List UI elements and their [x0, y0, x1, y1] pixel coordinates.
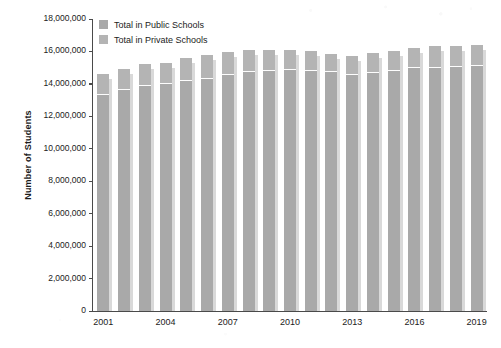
bar-stack: [180, 59, 192, 311]
bar-segment-private[interactable]: [450, 46, 462, 67]
bar-segment-private[interactable]: [263, 50, 275, 71]
bar-stack: [471, 46, 483, 311]
bar-segment-private[interactable]: [97, 74, 109, 95]
bar-segment-public[interactable]: [471, 66, 483, 311]
y-axis-tick-label: 6,000,000: [48, 208, 86, 218]
legend-item-label: Total in Private Schools: [114, 35, 208, 45]
bar-segment-public[interactable]: [305, 71, 317, 311]
bar-segment-public[interactable]: [160, 84, 172, 311]
x-axis-tick-label: 2013: [342, 317, 362, 327]
bar-segment-private[interactable]: [429, 46, 441, 67]
bar-segment-public[interactable]: [388, 71, 400, 311]
bar-stack: [450, 47, 462, 311]
bar-stack: [118, 70, 130, 311]
x-axis-tick-label: 2019: [467, 317, 487, 327]
bar-segment-private[interactable]: [201, 55, 213, 80]
bar-segment-public[interactable]: [408, 68, 420, 311]
bar-segment-private[interactable]: [367, 53, 379, 73]
x-axis-tick-label: 2001: [93, 317, 113, 327]
bar-stack: [263, 51, 275, 311]
bar-segment-public[interactable]: [97, 95, 109, 311]
bar-segment-public[interactable]: [284, 70, 296, 311]
bar-segment-private[interactable]: [222, 52, 234, 75]
x-axis-tick-label: 2004: [156, 317, 176, 327]
bar-stack: [97, 75, 109, 311]
bar-segment-private[interactable]: [139, 64, 151, 86]
bar-stack: [139, 65, 151, 311]
bar-segment-private[interactable]: [243, 50, 255, 72]
bar-chart: Number of Students 02,000,0004,000,0006,…: [0, 0, 501, 348]
bar-segment-private[interactable]: [471, 45, 483, 66]
bar-stack: [346, 57, 358, 311]
bar-segment-private[interactable]: [346, 56, 358, 75]
bar-segment-private[interactable]: [118, 69, 130, 90]
y-axis-tick-label: 4,000,000: [48, 240, 86, 250]
x-axis-tick-label: 2007: [218, 317, 238, 327]
legend-item-label: Total in Public Schools: [114, 20, 204, 30]
bar-segment-public[interactable]: [139, 86, 151, 311]
bar-segment-public[interactable]: [201, 79, 213, 311]
bar-segment-public[interactable]: [346, 75, 358, 311]
bar-stack: [201, 56, 213, 312]
bar-segment-public[interactable]: [367, 73, 379, 311]
bar-segment-public[interactable]: [450, 67, 462, 311]
bar-segment-private[interactable]: [388, 51, 400, 71]
y-axis-tick-label: 10,000,000: [43, 143, 86, 153]
y-axis-tick-label: 8,000,000: [48, 175, 86, 185]
bar-segment-public[interactable]: [325, 72, 337, 311]
bar-segment-private[interactable]: [305, 51, 317, 71]
legend-item[interactable]: Total in Private Schools: [99, 33, 208, 46]
x-axis-tick-label: 2010: [280, 317, 300, 327]
legend-item[interactable]: Total in Public Schools: [99, 18, 208, 31]
x-axis-ticks: 2001200420072010201320162019: [93, 312, 487, 336]
y-axis-ticks: 02,000,0004,000,0006,000,0008,000,00010,…: [0, 0, 93, 348]
bar-segment-private[interactable]: [325, 54, 337, 72]
bar-stack: [367, 54, 379, 311]
bar-stack: [284, 51, 296, 311]
y-axis-tick-label: 12,000,000: [43, 110, 86, 120]
bar-segment-public[interactable]: [243, 72, 255, 311]
bar-segment-public[interactable]: [263, 71, 275, 311]
legend-swatch-icon: [99, 20, 108, 29]
bar-segment-public[interactable]: [118, 90, 130, 311]
chart-legend: Total in Public SchoolsTotal in Private …: [99, 18, 208, 48]
bar-stack: [222, 53, 234, 311]
bar-stack: [160, 64, 172, 311]
bar-stack: [408, 49, 420, 311]
bar-segment-public[interactable]: [222, 75, 234, 311]
bar-stack: [388, 52, 400, 311]
bar-segment-public[interactable]: [180, 81, 192, 311]
y-axis-tick-label: 14,000,000: [43, 78, 86, 88]
bar-segment-private[interactable]: [180, 58, 192, 81]
bar-segment-public[interactable]: [429, 68, 441, 311]
bar-stack: [325, 55, 337, 311]
bar-segment-private[interactable]: [284, 50, 296, 70]
x-axis-tick-label: 2016: [404, 317, 424, 327]
bar-stack: [429, 47, 441, 311]
y-axis-tick-label: 18,000,000: [43, 13, 86, 23]
y-axis-tick-label: 2,000,000: [48, 273, 86, 283]
bar-stack: [243, 51, 255, 311]
legend-swatch-icon: [99, 35, 108, 44]
bar-segment-private[interactable]: [408, 48, 420, 68]
bar-stack: [305, 52, 317, 311]
plot-area: [93, 19, 487, 311]
bar-segment-private[interactable]: [160, 63, 172, 84]
y-axis-tick-label: 16,000,000: [43, 45, 86, 55]
y-axis-tick-label: 0: [81, 305, 86, 315]
